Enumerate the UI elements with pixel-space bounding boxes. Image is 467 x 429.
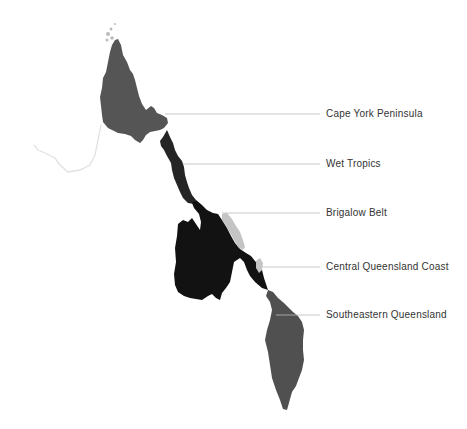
label-wet-tropics: Wet Tropics <box>326 158 381 170</box>
label-cape-york-peninsula: Cape York Peninsula <box>326 108 423 120</box>
label-brigalow-belt: Brigalow Belt <box>326 207 387 219</box>
region-brigalow-belt[interactable] <box>174 200 268 300</box>
region-map <box>0 0 467 429</box>
label-central-queensland-coast: Central Queensland Coast <box>326 261 449 273</box>
torres-strait-islands <box>106 23 117 42</box>
region-southeastern-queensland[interactable] <box>265 290 304 410</box>
region-wet-tropics[interactable] <box>160 130 196 204</box>
label-southeastern-queensland: Southeastern Queensland <box>326 309 447 321</box>
state-border-line <box>34 125 101 172</box>
region-cape-york-peninsula[interactable] <box>100 39 168 143</box>
